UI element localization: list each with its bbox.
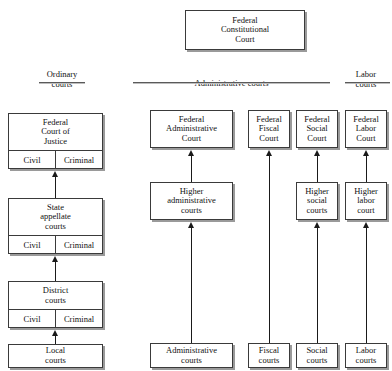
node-federal-social-court: Federal Social Court bbox=[296, 110, 338, 148]
arrowhead-up bbox=[188, 150, 194, 156]
division-civil: Civil bbox=[9, 310, 55, 327]
arrowhead-up bbox=[314, 150, 320, 156]
node-label: Higher social courts bbox=[303, 186, 331, 217]
node-federal-court-of-justice: Federal Court of Justice Civil Criminal bbox=[8, 113, 103, 169]
connector-district-to-state-appellate bbox=[55, 262, 56, 281]
connector-fiscal-to-federal-fiscal bbox=[269, 156, 270, 343]
division-criminal: Criminal bbox=[55, 151, 102, 168]
division-civil: Civil bbox=[9, 151, 55, 168]
node-administrative-courts: Administrative courts bbox=[150, 343, 233, 368]
connector-labor-to-higher-labor bbox=[366, 228, 367, 343]
node-label: Federal Court of Justice bbox=[39, 117, 72, 148]
node-divisions: Civil Criminal bbox=[9, 235, 102, 253]
connector-higher-social-to-federal-social bbox=[317, 156, 318, 182]
node-federal-labor-court: Federal Labor Court bbox=[345, 110, 387, 148]
connector-higher-admin-to-federal-admin bbox=[191, 156, 192, 182]
column-header-label: Ordinary courts bbox=[47, 69, 78, 89]
column-header-administrative-courts: Administrative courts bbox=[133, 69, 330, 89]
arrowhead-up bbox=[52, 256, 58, 262]
column-header-labor-courts: Labor courts bbox=[342, 60, 390, 89]
arrowhead-up bbox=[314, 222, 320, 228]
arrowhead-up bbox=[188, 222, 194, 228]
node-federal-constitutional-court: Federal Constitutional Court bbox=[185, 10, 305, 50]
connector-higher-labor-to-federal-labor bbox=[366, 156, 367, 182]
court-system-diagram: Federal Constitutional Court Ordinary co… bbox=[0, 0, 392, 371]
node-higher-administrative-courts: Higher administrative courts bbox=[150, 182, 233, 220]
node-local-courts: Local courts bbox=[8, 344, 103, 368]
node-state-appellate-courts: State appellate courts Civil Criminal bbox=[8, 198, 103, 254]
node-higher-social-courts: Higher social courts bbox=[296, 182, 338, 220]
arrowhead-up bbox=[363, 222, 369, 228]
node-label: Federal Fiscal Court bbox=[254, 114, 284, 145]
arrowhead-up bbox=[52, 330, 58, 336]
node-label: Administrative courts bbox=[164, 345, 219, 366]
node-label: State appellate courts bbox=[38, 202, 73, 233]
node-federal-fiscal-court: Federal Fiscal Court bbox=[248, 110, 290, 148]
node-federal-administrative-court: Federal Administrative Court bbox=[150, 110, 233, 148]
column-header-label: Labor courts bbox=[356, 69, 377, 89]
node-labor-courts: Labor courts bbox=[345, 343, 387, 368]
arrowhead-up bbox=[52, 171, 58, 177]
node-label: Fiscal courts bbox=[257, 345, 282, 366]
node-label: Federal Constitutional Court bbox=[219, 15, 271, 46]
node-fiscal-courts: Fiscal courts bbox=[248, 343, 290, 368]
division-criminal: Criminal bbox=[55, 236, 102, 253]
node-label: Labor courts bbox=[354, 345, 379, 366]
connector-admin-to-higher-admin bbox=[191, 228, 192, 343]
division-criminal: Criminal bbox=[55, 310, 102, 327]
connector-local-to-district bbox=[55, 336, 56, 344]
connector-state-appellate-to-federal-court bbox=[55, 176, 56, 198]
column-rule-labor bbox=[345, 82, 390, 83]
node-social-courts: Social courts bbox=[296, 343, 338, 368]
node-label: District courts bbox=[41, 285, 71, 306]
node-higher-labor-court: Higher labor court bbox=[345, 182, 387, 220]
node-district-courts: District courts Civil Criminal bbox=[8, 281, 103, 328]
arrowhead-up bbox=[363, 150, 369, 156]
node-divisions: Civil Criminal bbox=[9, 309, 102, 327]
division-civil: Civil bbox=[9, 236, 55, 253]
node-label: Higher administrative courts bbox=[165, 186, 218, 217]
node-label: Local courts bbox=[43, 345, 68, 366]
node-label: Higher labor court bbox=[352, 186, 380, 217]
node-label: Social courts bbox=[304, 345, 329, 366]
node-label: Federal Labor Court bbox=[351, 114, 381, 145]
column-rule-administrative bbox=[133, 82, 330, 83]
node-label: Federal Administrative Court bbox=[164, 114, 219, 145]
connector-social-to-higher-social bbox=[317, 228, 318, 343]
column-rule-ordinary bbox=[39, 82, 85, 83]
arrowhead-up bbox=[266, 150, 272, 156]
node-label: Federal Social Court bbox=[302, 114, 332, 145]
column-header-ordinary-courts: Ordinary courts bbox=[22, 60, 102, 89]
node-divisions: Civil Criminal bbox=[9, 150, 102, 168]
